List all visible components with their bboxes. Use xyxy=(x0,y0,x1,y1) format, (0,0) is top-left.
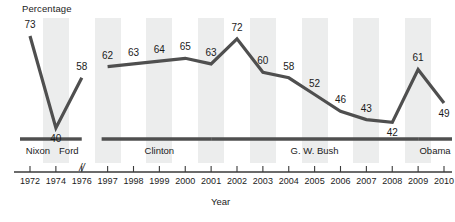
chart-container: Percentage 73405862636465637260585246434… xyxy=(0,0,455,222)
x-tick-label: 2005 xyxy=(305,176,325,186)
data-point-label: 43 xyxy=(361,103,372,114)
chart-plot xyxy=(0,0,455,222)
data-point-label: 46 xyxy=(335,94,346,105)
president-label: G. W. Bush xyxy=(291,145,339,156)
x-tick-label: 2003 xyxy=(253,176,273,186)
x-tick-label: 2000 xyxy=(175,176,195,186)
x-tick-label: 1998 xyxy=(123,176,143,186)
x-tick-label: 2009 xyxy=(408,176,428,186)
president-label: Nixon xyxy=(26,145,50,156)
x-tick-label: 1974 xyxy=(46,176,66,186)
data-point-label: 62 xyxy=(102,50,113,61)
x-tick-label: 2001 xyxy=(201,176,221,186)
x-tick-label: 2002 xyxy=(227,176,247,186)
x-tick-label: 2006 xyxy=(330,176,350,186)
president-label: Ford xyxy=(59,145,79,156)
data-line-segment-1 xyxy=(30,36,82,128)
data-point-label: 63 xyxy=(206,47,217,58)
data-point-label: 58 xyxy=(283,61,294,72)
x-axis-title: Year xyxy=(211,196,230,207)
x-tick-label: 1976 xyxy=(72,176,92,186)
data-point-label: 73 xyxy=(24,19,35,30)
data-point-label: 63 xyxy=(128,47,139,58)
data-point-label: 49 xyxy=(438,108,449,119)
x-tick-label: 2007 xyxy=(356,176,376,186)
data-point-label: 60 xyxy=(257,55,268,66)
data-point-label: 64 xyxy=(154,44,165,55)
x-tick-label: 2008 xyxy=(382,176,402,186)
president-label: Clinton xyxy=(145,145,175,156)
data-point-label: 65 xyxy=(180,41,191,52)
data-point-label: 42 xyxy=(387,127,398,138)
x-tick-label: 1997 xyxy=(98,176,118,186)
data-point-label: 58 xyxy=(76,61,87,72)
axis-break-icon: // xyxy=(79,162,85,173)
x-tick-label: 1999 xyxy=(149,176,169,186)
x-tick-label: 2010 xyxy=(434,176,454,186)
x-tick-label: 2004 xyxy=(279,176,299,186)
president-label: Obama xyxy=(419,145,450,156)
data-point-label: 40 xyxy=(50,133,61,144)
x-tick-label: 1972 xyxy=(20,176,40,186)
data-point-label: 72 xyxy=(231,22,242,33)
data-point-label: 52 xyxy=(309,78,320,89)
data-point-label: 61 xyxy=(413,52,424,63)
